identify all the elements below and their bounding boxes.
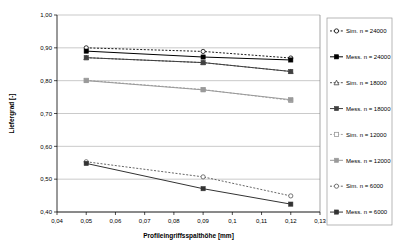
data-point-marker: [334, 29, 338, 33]
x-tick-label: 0,12: [285, 218, 297, 224]
data-series: [84, 160, 293, 198]
chart-container: 0,040,050,060,070,080,090,10,110,120,13 …: [0, 0, 394, 248]
data-point-marker: [84, 161, 88, 165]
x-tick-label: 0,1: [228, 218, 237, 224]
x-tick-label: 0,09: [197, 218, 209, 224]
data-point-marker: [84, 49, 88, 53]
legend-item-label[interactable]: Sim. n = 18000: [346, 80, 387, 86]
data-point-marker: [289, 69, 293, 73]
series-line: [86, 162, 291, 196]
data-point-marker: [289, 202, 293, 206]
x-tick-label: 0,07: [139, 218, 151, 224]
data-series: [84, 56, 293, 74]
x-tick-label: 0,13: [314, 218, 326, 224]
data-series: [84, 78, 293, 102]
data-series: [84, 55, 293, 73]
legend-item-label[interactable]: Mess. n = 24000: [346, 54, 391, 60]
series-line: [86, 163, 291, 204]
x-tick-label: 0,08: [168, 218, 180, 224]
y-tick-label: 0,80: [40, 78, 52, 84]
x-tick-label: 0,04: [51, 218, 63, 224]
x-axis-title: Profileingriffsspalthöhe [mm]: [143, 232, 234, 240]
y-tick-label: 0,40: [40, 209, 52, 215]
data-point-marker: [334, 210, 338, 214]
data-point-marker: [201, 55, 205, 59]
chart-canvas: 0,040,050,060,070,080,090,10,110,120,13 …: [0, 0, 394, 248]
y-tick-label: 0,90: [40, 45, 52, 51]
data-point-marker: [289, 98, 293, 102]
legend-item-label[interactable]: Mess. n = 6000: [346, 209, 388, 215]
data-point-marker: [289, 194, 293, 198]
legend-item-label[interactable]: Sim. n = 6000: [346, 183, 384, 189]
data-point-marker: [334, 106, 338, 110]
legend-item-label[interactable]: Sim. n = 12000: [346, 132, 387, 138]
gridlines: [57, 15, 320, 212]
y-tick-label: 0,60: [40, 144, 52, 150]
data-point-marker: [84, 79, 88, 83]
y-tick-label: 0,50: [40, 176, 52, 182]
x-tick-label: 0,05: [80, 218, 92, 224]
data-point-marker: [201, 61, 205, 65]
chart-legend: Sim. n = 24000Mess. n = 24000Sim. n = 18…: [327, 18, 392, 225]
data-point-marker: [334, 184, 338, 188]
data-point-marker: [201, 49, 205, 53]
data-series: [84, 161, 293, 206]
data-point-marker: [201, 88, 205, 92]
data-point-marker: [84, 56, 88, 60]
legend-item-label[interactable]: Mess. n = 18000: [346, 106, 391, 112]
data-point-marker: [289, 58, 293, 62]
legend-item-label[interactable]: Mess. n = 12000: [346, 158, 391, 164]
x-axis-ticks: 0,040,050,060,070,080,090,10,110,120,13: [51, 212, 326, 224]
x-tick-label: 0,06: [110, 218, 122, 224]
legend-item-label[interactable]: Sim. n = 24000: [346, 28, 387, 34]
data-series-group: [84, 46, 293, 206]
data-point-marker: [201, 175, 205, 179]
data-point-marker: [334, 132, 338, 136]
series-line: [86, 58, 291, 72]
x-tick-label: 0,11: [256, 218, 268, 224]
y-tick-label: 0,70: [40, 111, 52, 117]
y-axis-title: Liefergrad [-]: [8, 93, 16, 133]
data-series: [84, 79, 293, 102]
series-line: [86, 58, 291, 72]
data-point-marker: [201, 187, 205, 191]
data-point-marker: [334, 55, 338, 59]
data-point-marker: [334, 158, 338, 162]
y-tick-label: 1,00: [40, 12, 52, 18]
y-axis-ticks: 0,400,500,600,700,800,901,00: [40, 12, 57, 215]
